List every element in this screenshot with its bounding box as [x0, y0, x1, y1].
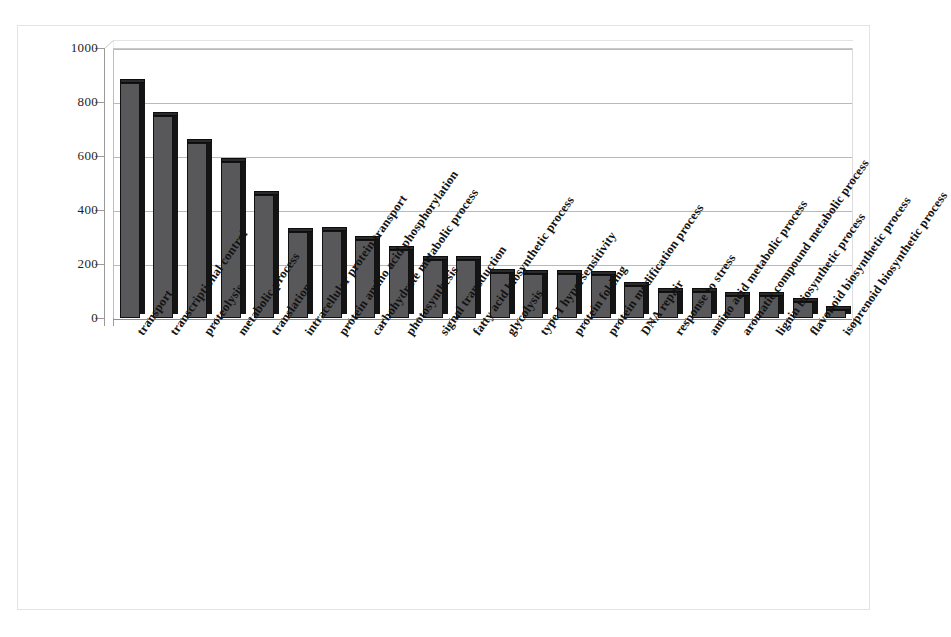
bar-top-face — [187, 139, 212, 143]
y-tick-label-200: 200 — [78, 256, 98, 272]
y-tick-label-0: 0 — [91, 310, 98, 326]
y-tick-label-400: 400 — [78, 202, 98, 218]
bar-top-face — [456, 256, 481, 260]
bar-top-face — [254, 191, 279, 195]
bar-top-face — [288, 228, 313, 232]
bar-top-face — [153, 112, 178, 116]
bar-top-face — [221, 158, 246, 162]
y-tick-label-600: 600 — [78, 148, 98, 164]
y-axis: 1000 800 600 400 200 0 — [104, 48, 105, 326]
bar-top-face — [322, 227, 347, 231]
bar-side-face — [140, 79, 145, 314]
bar-side-face — [173, 112, 178, 315]
bar-top-face — [120, 79, 145, 83]
bar-front-face — [120, 83, 140, 318]
bar-side-face — [543, 270, 548, 314]
x-axis-labels: transporttranscriptional controlproteoly… — [0, 330, 888, 610]
y-tick-label-800: 800 — [78, 94, 98, 110]
x-tick-mark — [113, 318, 114, 326]
bar-side-face — [308, 228, 313, 314]
y-tick-label-1000: 1000 — [71, 40, 98, 56]
bar-group — [120, 78, 140, 318]
